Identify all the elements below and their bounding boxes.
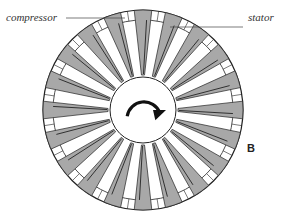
stator-label: stator — [248, 11, 274, 23]
compressor-label: compressor — [6, 11, 57, 23]
hub — [110, 77, 176, 143]
compressor-disc-diagram — [0, 0, 282, 211]
panel-letter: B — [247, 142, 255, 154]
